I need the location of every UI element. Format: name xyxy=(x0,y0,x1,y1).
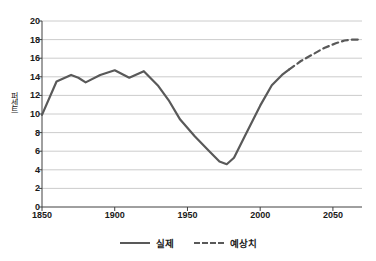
x-tick-1900: 1900 xyxy=(105,210,125,220)
x-tick-2050: 2050 xyxy=(323,210,343,220)
chart-legend: 실제 예상치 xyxy=(0,236,376,250)
legend-dashed-line-icon xyxy=(194,242,224,244)
y-axis-tick-labels: 02468101214161820 xyxy=(0,0,40,261)
x-tick-1850: 1850 xyxy=(32,210,52,220)
x-tick-1950: 1950 xyxy=(177,210,197,220)
y-tick-4: 4 xyxy=(18,165,40,175)
y-tick-16: 16 xyxy=(18,53,40,63)
legend-item-actual: 실제 xyxy=(120,236,174,250)
line-chart: 퍼센트 02468101214161820 실제 예상치 18501900195… xyxy=(0,0,376,261)
x-tick-2000: 2000 xyxy=(250,210,270,220)
legend-label-actual: 실제 xyxy=(156,236,174,250)
plot-area xyxy=(0,0,376,261)
y-tick-10: 10 xyxy=(18,109,40,119)
y-tick-6: 6 xyxy=(18,146,40,156)
y-tick-8: 8 xyxy=(18,128,40,138)
y-tick-12: 12 xyxy=(18,90,40,100)
y-tick-20: 20 xyxy=(18,16,40,26)
y-tick-14: 14 xyxy=(18,72,40,82)
legend-item-projection: 예상치 xyxy=(194,236,257,250)
y-tick-18: 18 xyxy=(18,35,40,45)
y-tick-2: 2 xyxy=(18,183,40,193)
legend-label-projection: 예상치 xyxy=(230,236,257,250)
legend-solid-line-icon xyxy=(120,242,150,244)
